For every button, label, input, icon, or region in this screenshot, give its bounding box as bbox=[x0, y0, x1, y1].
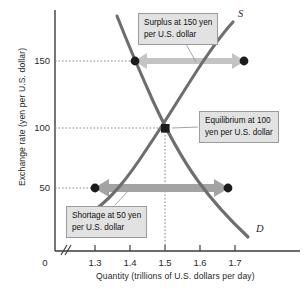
equilibrium-callout-line2: yen per U.S. dollar bbox=[205, 127, 273, 139]
y-tick-label-100: 100 bbox=[34, 122, 50, 133]
shortage-callout-line1: Shortage at 50 yen bbox=[72, 210, 141, 222]
shortage-callout: Shortage at 50 yen per U.S. dollar bbox=[66, 206, 147, 238]
x-tick-label-1-4: 1.4 bbox=[123, 257, 136, 268]
point-supply-at-50 bbox=[91, 184, 100, 193]
point-supply-at-150 bbox=[240, 57, 249, 66]
equilibrium-callout: Equilibrium at 100 yen per U.S. dollar bbox=[199, 111, 279, 143]
supply-curve-label: S bbox=[238, 8, 244, 19]
y-tick-label-150: 150 bbox=[34, 55, 50, 66]
x-tick-label-1-7: 1.7 bbox=[228, 257, 241, 268]
equilibrium-callout-line1: Equilibrium at 100 bbox=[205, 115, 273, 127]
surplus-callout-line2: per U.S. dollar bbox=[144, 29, 212, 41]
x-axis-break-icon bbox=[61, 245, 71, 255]
shortage-callout-line2: per U.S. dollar bbox=[72, 222, 141, 234]
x-tick-label-1-3: 1.3 bbox=[88, 257, 101, 268]
y-axis-title: Exchange rate (yen per U.S. dollar) bbox=[17, 37, 27, 197]
point-equilibrium bbox=[161, 124, 170, 133]
surplus-callout-line1: Surplus at 150 yen bbox=[144, 17, 212, 29]
surplus-arrow bbox=[134, 53, 245, 69]
x-axis-title: Quantity (trillions of U.S. dollars per … bbox=[96, 271, 255, 281]
x-tick-label-1-6: 1.6 bbox=[193, 257, 206, 268]
point-demand-at-150 bbox=[131, 57, 140, 66]
x-tick-label-1-5: 1.5 bbox=[158, 257, 171, 268]
surplus-callout: Surplus at 150 yen per U.S. dollar bbox=[138, 13, 218, 45]
x-tick-label-0: 0 bbox=[42, 257, 47, 268]
demand-curve-label: D bbox=[255, 223, 264, 234]
exchange-rate-supply-demand-chart: S D 150 100 50 0 1.3 1.4 1.5 1.6 1.7 Qua… bbox=[0, 0, 308, 289]
equilibrium-leader-line bbox=[172, 127, 198, 128]
shortage-leader-line bbox=[115, 190, 129, 205]
y-tick-label-50: 50 bbox=[39, 182, 50, 193]
point-demand-at-50 bbox=[224, 184, 233, 193]
